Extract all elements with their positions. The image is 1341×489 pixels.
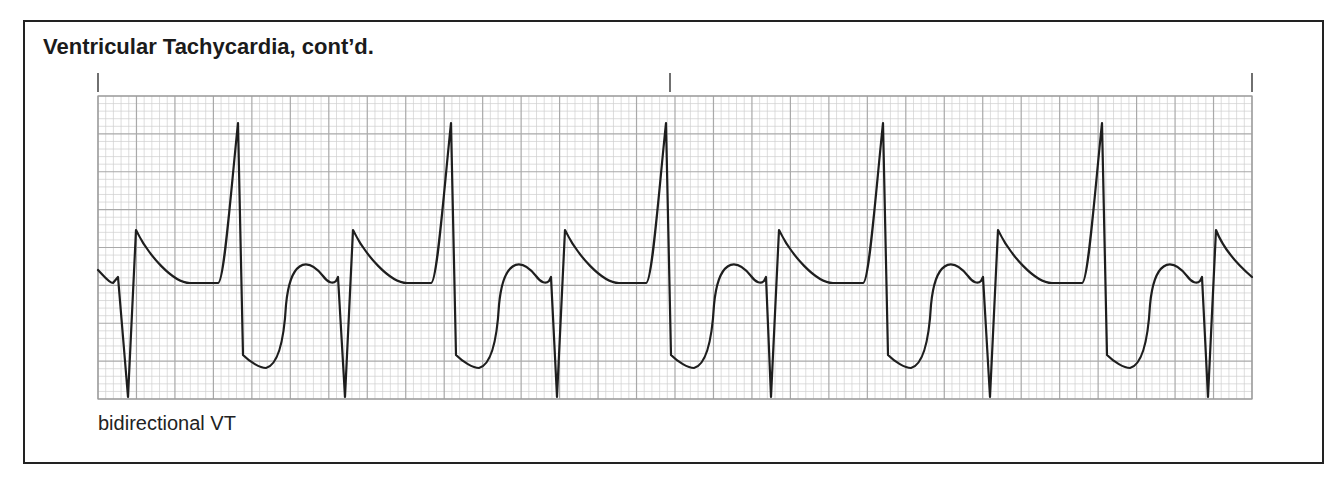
- time-markers: [98, 73, 1252, 92]
- strip-caption: bidirectional VT: [98, 412, 236, 435]
